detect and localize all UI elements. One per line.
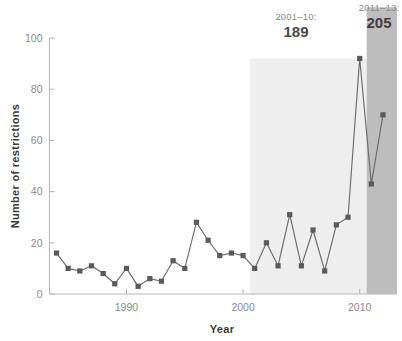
data-point-marker [136, 284, 141, 289]
data-point-marker [66, 266, 71, 271]
data-point-marker [369, 181, 374, 186]
y-tick-label: 0 [37, 288, 43, 300]
data-point-marker [89, 263, 94, 268]
data-point-marker [182, 266, 187, 271]
annotation-dark-value: 205 [366, 14, 391, 31]
data-point-marker [275, 263, 280, 268]
data-point-marker [310, 227, 315, 232]
y-tick-label: 60 [31, 134, 43, 146]
annotation-light-value: 189 [283, 23, 308, 40]
annotation-dark-period: 2011–13: [359, 2, 400, 13]
data-point-marker [299, 263, 304, 268]
data-point-marker [334, 222, 339, 227]
data-point-marker [147, 276, 152, 281]
line-chart: 020406080100 199020002010 Number of rest… [0, 0, 402, 341]
band-2011-2013 [367, 7, 397, 294]
data-point-marker [101, 271, 106, 276]
band-2001-2010 [250, 58, 367, 294]
chart-figure: 020406080100 199020002010 Number of rest… [0, 0, 402, 341]
data-point-marker [287, 212, 292, 217]
annotation-light-period: 2001–10: [275, 11, 316, 22]
x-tick-label: 2000 [231, 301, 255, 313]
data-point-marker [159, 279, 164, 284]
data-point-marker [380, 112, 385, 117]
data-point-marker [345, 215, 350, 220]
y-tick-label: 80 [31, 83, 43, 95]
x-tick-label: 1990 [115, 301, 139, 313]
data-point-marker [240, 253, 245, 258]
x-axis-title: Year [210, 323, 235, 335]
data-point-marker [252, 266, 257, 271]
data-point-marker [124, 266, 129, 271]
x-tick-label: 2010 [348, 301, 372, 313]
data-point-marker [112, 281, 117, 286]
y-axis-title: Number of restrictions [9, 104, 21, 229]
data-point-marker [322, 268, 327, 273]
data-point-marker [205, 238, 210, 243]
data-point-marker [194, 220, 199, 225]
data-point-marker [77, 268, 82, 273]
y-tick-label: 40 [31, 185, 43, 197]
data-point-marker [217, 253, 222, 258]
y-tick-label: 20 [31, 237, 43, 249]
data-point-marker [264, 240, 269, 245]
data-point-marker [229, 250, 234, 255]
data-point-marker [54, 250, 59, 255]
y-tick-label: 100 [25, 32, 43, 44]
data-point-marker [171, 258, 176, 263]
data-point-marker [357, 56, 362, 61]
